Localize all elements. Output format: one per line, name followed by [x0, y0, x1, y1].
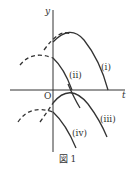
t-axis-label: t [122, 90, 126, 100]
curve-i [53, 32, 108, 90]
curve-ii-label: (ii) [69, 70, 82, 80]
curve-iii-dashed [40, 103, 53, 122]
origin-label: O [44, 91, 51, 101]
curve-iv-label: (iv) [72, 128, 87, 138]
figure-caption: 図 1 [0, 152, 135, 165]
y-axis-label: y [45, 6, 50, 16]
curve-ii-tail [68, 84, 80, 108]
curve-i-label: (i) [101, 62, 111, 72]
curve-iv-dashed [18, 110, 53, 122]
curve-iii-label: (iii) [100, 114, 116, 124]
curve-i-dashed [44, 33, 70, 50]
curve-ii-dashed [20, 55, 53, 65]
